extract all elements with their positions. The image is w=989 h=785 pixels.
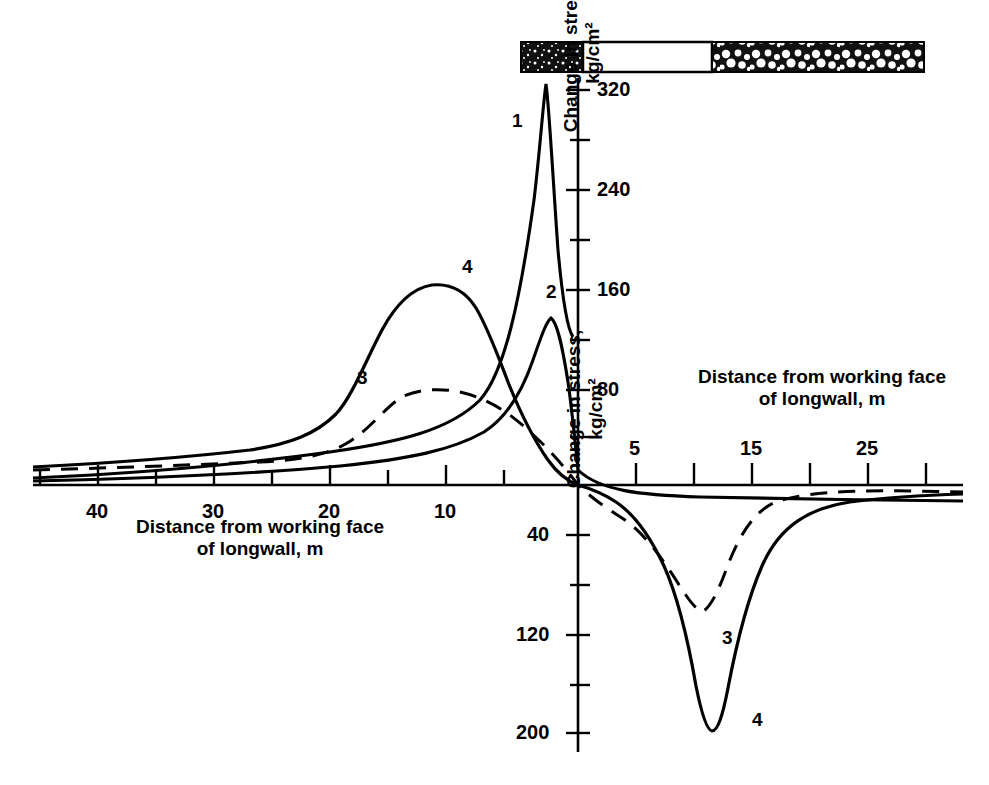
right-x-axis-title: Distance from working face of longwall, …: [672, 366, 972, 411]
lower-y-tick-200: 200: [516, 721, 549, 745]
right-x-tick-15: 15: [740, 437, 762, 461]
curve-label-3-lower: 3: [722, 627, 733, 649]
curve-label-2: 2: [546, 281, 557, 303]
left-x-axis-title: Distance from working face of longwall, …: [100, 516, 420, 561]
left-x-tick-10: 10: [434, 500, 456, 524]
curve-label-3-upper: 3: [357, 367, 368, 389]
upper-y-tick-240: 240: [597, 178, 630, 202]
seam-segment-caved-goaf: [712, 42, 924, 72]
stress-change-chart-figure: 320 240 160 80 40 120 200 40 30 20 10 5 …: [0, 0, 989, 785]
right-x-tick-5: 5: [629, 437, 640, 461]
curve-1-path: [33, 84, 573, 478]
upper-y-axis-title: Change in stress, kg/cm²: [560, 0, 605, 168]
lower-y-tick-120: 120: [516, 623, 549, 647]
lower-y-axis-title: Change in stress, kg/cm²: [563, 294, 608, 524]
curve-label-1: 1: [512, 110, 523, 132]
lower-y-tick-40: 40: [527, 523, 549, 547]
right-x-tick-25: 25: [856, 437, 878, 461]
curve-label-4-upper: 4: [462, 256, 473, 278]
axis-lines: [33, 78, 963, 752]
right-x-ticks: [636, 463, 926, 485]
curve-4-path: [33, 285, 963, 731]
curve-3-path: [33, 390, 963, 612]
curve-label-4-lower: 4: [752, 709, 763, 731]
